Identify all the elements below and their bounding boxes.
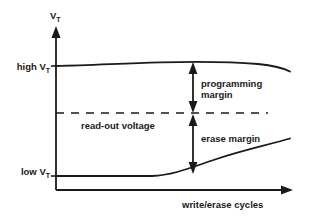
programming-margin-arrow xyxy=(189,62,198,113)
y-axis-label-subscript: T xyxy=(56,16,60,23)
programming-margin-label: programming margin xyxy=(201,78,262,100)
threshold-voltage-window-figure: VT high VT low VT read-out voltage progr… xyxy=(0,0,311,218)
y-axis-label: VT xyxy=(50,10,61,25)
high-vt-label-main: high V xyxy=(17,61,46,72)
y-axis xyxy=(52,26,61,190)
low-vt-label-main: low V xyxy=(21,166,46,177)
erase-margin-label: erase margin xyxy=(201,133,260,144)
low-vt-curve xyxy=(56,139,290,177)
figure-canvas xyxy=(0,0,311,218)
x-axis-label: write/erase cycles xyxy=(182,199,263,210)
low-vt-label-subscript: T xyxy=(46,172,50,179)
programming-margin-label-line2: margin xyxy=(201,89,262,100)
high-vt-label: high VT xyxy=(5,61,50,76)
high-vt-curve xyxy=(56,62,290,72)
low-vt-label: low VT xyxy=(5,166,50,181)
readout-voltage-label: read-out voltage xyxy=(81,120,155,131)
erase-margin-arrow xyxy=(189,114,198,174)
x-axis xyxy=(56,186,293,195)
programming-margin-label-line1: programming xyxy=(201,78,262,89)
high-vt-label-subscript: T xyxy=(46,67,50,74)
